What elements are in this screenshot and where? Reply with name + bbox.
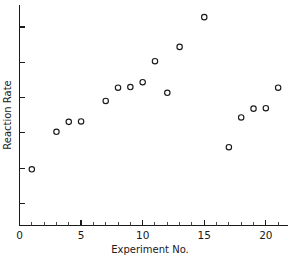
plot-canvas: 05101520 Experiment No. Reaction Rate <box>0 0 295 260</box>
data-point-marker <box>263 105 268 110</box>
x-axis-tick-label: 15 <box>198 229 211 241</box>
data-point-marker <box>177 44 182 49</box>
data-point-series <box>29 14 281 172</box>
data-point-marker <box>226 145 231 150</box>
x-axis-minor-ticks <box>32 222 278 226</box>
x-axis-tick-label: 10 <box>136 229 149 241</box>
data-point-marker <box>152 59 157 64</box>
scatter-chart-figure: 05101520 Experiment No. Reaction Rate <box>0 0 295 260</box>
x-axis-tick-labels: 05101520 <box>16 229 272 241</box>
data-point-marker <box>140 79 145 84</box>
y-axis-title: Reaction Rate <box>2 80 13 150</box>
data-point-marker <box>251 106 256 111</box>
data-point-marker <box>238 115 243 120</box>
x-axis-tick-label: 0 <box>16 229 23 241</box>
data-point-marker <box>54 129 59 134</box>
data-point-marker <box>275 85 280 90</box>
x-axis-title: Experiment No. <box>111 244 189 255</box>
data-point-marker <box>29 167 34 172</box>
data-point-marker <box>202 14 207 19</box>
axes-group <box>20 5 289 226</box>
data-point-marker <box>128 84 133 89</box>
y-axis-ticks <box>20 27 26 203</box>
data-point-marker <box>78 119 83 124</box>
data-point-marker <box>165 90 170 95</box>
data-point-marker <box>66 119 71 124</box>
x-axis-tick-label: 5 <box>78 229 85 241</box>
x-axis-tick-label: 20 <box>259 229 272 241</box>
data-point-marker <box>115 85 120 90</box>
data-point-marker <box>103 98 108 103</box>
